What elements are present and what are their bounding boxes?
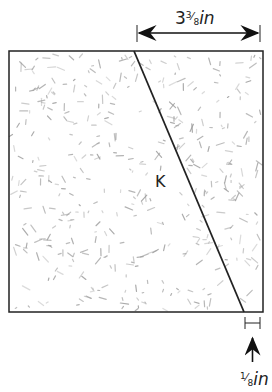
texture-speck xyxy=(21,191,27,192)
texture-speck xyxy=(188,299,191,304)
texture-speck xyxy=(26,243,27,248)
texture-speck xyxy=(38,302,43,306)
texture-speck xyxy=(202,119,204,125)
texture-speck xyxy=(25,69,33,70)
texture-speck xyxy=(66,243,69,244)
texture-speck xyxy=(73,253,74,256)
texture-speck xyxy=(177,64,179,70)
texture-speck xyxy=(48,88,52,94)
texture-speck xyxy=(87,179,91,180)
texture-speck xyxy=(104,257,107,258)
texture-speck xyxy=(188,290,193,292)
texture-speck xyxy=(9,135,12,137)
texture-speck xyxy=(174,124,180,128)
texture-speck xyxy=(48,245,51,246)
texture-speck xyxy=(197,239,199,243)
texture-speck xyxy=(244,131,248,138)
texture-speck xyxy=(209,299,210,307)
texture-speck xyxy=(257,234,260,240)
texture-speck xyxy=(127,264,134,265)
texture-speck xyxy=(96,81,101,84)
texture-speck xyxy=(83,253,89,255)
texture-speck xyxy=(256,222,257,224)
texture-speck xyxy=(240,299,245,303)
texture-speck xyxy=(137,190,140,196)
texture-speck xyxy=(97,136,100,137)
texture-speck xyxy=(122,298,123,301)
texture-speck xyxy=(67,121,73,122)
texture-speck xyxy=(92,142,99,147)
texture-speck xyxy=(65,112,69,114)
texture-speck xyxy=(243,249,244,253)
texture-speck xyxy=(176,117,178,119)
texture-speck xyxy=(197,136,203,139)
texture-speck xyxy=(90,69,95,73)
texture-speck xyxy=(54,276,56,280)
texture-speck xyxy=(142,202,143,204)
texture-speck xyxy=(148,208,155,211)
texture-speck xyxy=(163,140,165,141)
texture-speck xyxy=(161,61,166,63)
texture-speck xyxy=(88,116,89,121)
texture-speck xyxy=(150,199,151,201)
texture-speck xyxy=(108,112,113,114)
texture-speck xyxy=(196,243,199,244)
texture-speck xyxy=(252,244,257,251)
texture-speck xyxy=(48,67,56,68)
texture-speck xyxy=(146,67,150,69)
texture-speck xyxy=(70,225,71,228)
texture-speck xyxy=(74,123,77,124)
texture-speck xyxy=(231,238,232,240)
texture-speck xyxy=(141,162,143,163)
texture-speck xyxy=(34,171,37,172)
top-dimension-unit: in xyxy=(199,8,215,28)
texture-speck xyxy=(187,215,189,217)
texture-speck xyxy=(247,290,252,295)
texture-speck xyxy=(135,308,138,310)
texture-speck xyxy=(95,232,97,233)
texture-speck xyxy=(227,162,229,163)
texture-speck xyxy=(70,194,73,196)
texture-speck xyxy=(134,197,136,199)
texture-speck xyxy=(57,67,64,70)
texture-speck xyxy=(24,208,31,209)
texture-speck xyxy=(47,96,48,98)
texture-speck xyxy=(79,299,83,302)
texture-speck xyxy=(48,278,49,280)
texture-speck xyxy=(237,146,241,147)
texture-speck xyxy=(188,82,193,86)
texture-speck xyxy=(137,257,143,258)
texture-speck xyxy=(187,57,190,58)
texture-speck xyxy=(52,78,55,83)
texture-speck xyxy=(163,289,164,292)
texture-speck xyxy=(132,262,135,263)
texture-speck xyxy=(240,218,248,222)
texture-speck xyxy=(254,55,255,57)
texture-speck xyxy=(73,259,74,261)
texture-speck xyxy=(106,77,110,81)
texture-speck xyxy=(55,268,57,271)
texture-speck xyxy=(16,245,21,247)
texture-speck xyxy=(134,215,136,216)
texture-speck xyxy=(217,212,225,213)
texture-speck xyxy=(14,146,15,152)
texture-speck xyxy=(68,220,72,221)
texture-speck xyxy=(177,288,179,289)
texture-speck xyxy=(211,197,214,199)
texture-speck xyxy=(157,223,162,225)
texture-speck xyxy=(256,265,258,269)
bottom-dimension-label: 1⁄8in xyxy=(240,369,269,389)
texture-speck xyxy=(43,256,48,262)
top-dimension-whole: 3 xyxy=(175,8,186,28)
texture-speck xyxy=(208,147,209,152)
texture-speck xyxy=(74,157,77,161)
texture-speck xyxy=(43,58,50,59)
texture-speck xyxy=(24,250,28,253)
texture-speck xyxy=(120,242,124,243)
texture-speck xyxy=(74,85,75,92)
texture-speck xyxy=(192,124,193,132)
texture-speck xyxy=(93,288,94,290)
texture-speck xyxy=(14,247,17,255)
texture-speck xyxy=(132,171,133,172)
texture-speck xyxy=(207,249,211,255)
